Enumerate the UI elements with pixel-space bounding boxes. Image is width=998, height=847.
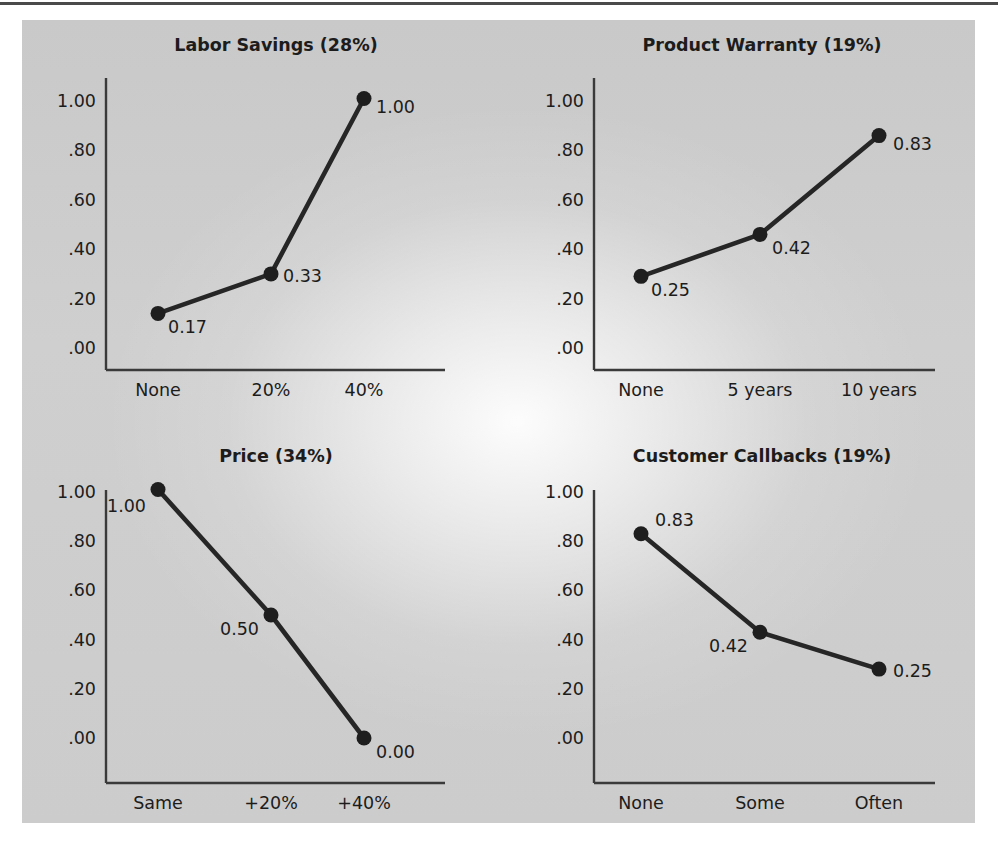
y-tick-label: .00 [68,338,96,358]
data-point-marker [151,306,166,321]
data-point-marker [872,662,887,677]
data-point-marker [357,91,372,106]
chart-panel-1: Labor Savings (28%)1.00.80.60.40.20.00No… [57,35,445,400]
y-tick-label: .40 [68,239,96,259]
panel-title: Customer Callbacks (19%) [633,446,891,466]
data-point-value-label: 0.83 [655,510,694,530]
data-point-value-label: 0.83 [893,134,932,154]
x-tick-label: 20% [252,380,291,400]
y-tick-label: .60 [68,190,96,210]
data-point-value-label: 0.17 [168,317,207,337]
chart-panel-4: Customer Callbacks (19%)1.00.80.60.40.20… [545,446,935,813]
y-tick-label: .00 [68,728,96,748]
data-point-value-label: 0.25 [893,661,932,681]
data-point-value-label: 0.25 [651,280,690,300]
y-tick-label: .20 [556,289,584,309]
y-tick-label: .80 [68,140,96,160]
y-tick-label: .40 [556,630,584,650]
figure-canvas: Labor Savings (28%)1.00.80.60.40.20.00No… [0,0,998,847]
panel-title: Price (34%) [219,446,333,466]
data-point-marker [151,482,166,497]
series-line [641,534,879,669]
y-tick-label: 1.00 [545,482,584,502]
x-tick-label: Same [133,793,183,813]
data-point-value-label: 0.42 [772,238,811,258]
y-tick-label: .60 [556,580,584,600]
y-tick-label: .60 [556,190,584,210]
y-tick-label: .40 [556,239,584,259]
y-tick-label: .80 [556,531,584,551]
data-point-marker [872,128,887,143]
y-tick-label: .20 [68,289,96,309]
data-point-marker [357,731,372,746]
data-point-value-label: 0.00 [376,742,415,762]
y-tick-label: .20 [556,679,584,699]
data-point-marker [753,227,768,242]
four-panel-line-chart: Labor Savings (28%)1.00.80.60.40.20.00No… [0,0,998,847]
x-tick-label: None [135,380,181,400]
x-tick-label: None [618,793,664,813]
data-point-value-label: 1.00 [107,496,146,516]
y-tick-label: 1.00 [545,91,584,111]
y-tick-label: 1.00 [57,91,96,111]
series-line [158,490,364,738]
panel-title: Product Warranty (19%) [642,35,881,55]
y-tick-label: .80 [556,140,584,160]
data-point-marker [634,269,649,284]
x-tick-label: Often [855,793,903,813]
y-tick-label: 1.00 [57,482,96,502]
x-tick-label: +40% [337,793,391,813]
chart-panel-2: Product Warranty (19%)1.00.80.60.40.20.0… [545,35,935,400]
x-tick-label: Some [735,793,785,813]
panel-title: Labor Savings (28%) [174,35,377,55]
x-tick-label: None [618,380,664,400]
x-tick-label: 10 years [841,380,917,400]
data-point-marker [264,266,279,281]
y-tick-label: .60 [68,580,96,600]
data-point-marker [753,625,768,640]
y-tick-label: .00 [556,728,584,748]
x-tick-label: +20% [244,793,298,813]
data-point-value-label: 1.00 [376,97,415,117]
data-point-marker [634,526,649,541]
chart-panel-3: Price (34%)1.00.80.60.40.20.00Same+20%+4… [57,446,445,813]
y-tick-label: .00 [556,338,584,358]
data-point-marker [264,608,279,623]
data-point-value-label: 0.50 [220,619,259,639]
data-point-value-label: 0.33 [283,266,322,286]
x-tick-label: 5 years [728,380,793,400]
y-tick-label: .40 [68,630,96,650]
y-tick-label: .80 [68,531,96,551]
y-tick-label: .20 [68,679,96,699]
series-line [158,99,364,314]
series-line [641,136,879,277]
x-tick-label: 40% [345,380,384,400]
data-point-value-label: 0.42 [709,636,748,656]
